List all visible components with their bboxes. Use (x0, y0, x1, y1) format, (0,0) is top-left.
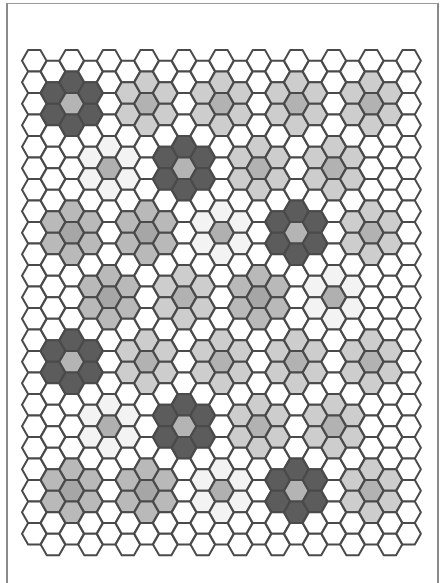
hex-cell (396, 93, 421, 115)
hex-cell (396, 437, 421, 459)
hex-cell (396, 287, 421, 309)
hex-cell (396, 502, 421, 524)
hex-cell (396, 351, 421, 373)
hex-cell (396, 480, 421, 502)
hex-cell (396, 222, 421, 244)
hex-cell (396, 394, 421, 416)
hex-cell (396, 115, 421, 137)
hex-cell (396, 50, 421, 72)
hex-cell (396, 330, 421, 352)
hex-cell (396, 265, 421, 287)
hex-cell (396, 201, 421, 223)
hex-cell (396, 136, 421, 158)
hex-cell (396, 308, 421, 330)
hex-cell (396, 179, 421, 201)
hex-cell (396, 244, 421, 266)
hex-cell (396, 416, 421, 438)
hex-cell (396, 459, 421, 481)
hex-cell (396, 523, 421, 545)
hex-cells-layer (22, 50, 421, 555)
hex-cell (396, 373, 421, 395)
hex-cell (396, 72, 421, 94)
hex-cell (396, 158, 421, 180)
